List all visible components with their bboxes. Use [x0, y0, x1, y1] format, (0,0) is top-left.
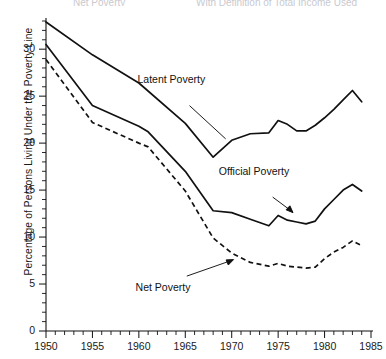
y-tick-label: 5: [29, 277, 35, 289]
series-line-official-poverty: [46, 44, 362, 225]
chart-svg: 051015202530 195019551960196519701975198…: [0, 0, 386, 359]
x-tick-label: 1980: [313, 340, 337, 352]
x-tick-label: 1985: [359, 340, 383, 352]
poverty-line-chart: Net Poverty With Definition of Total Inc…: [0, 0, 386, 359]
x-tick-label: 1965: [174, 340, 198, 352]
x-axis: 19501955196019651970197519801985: [34, 331, 383, 352]
x-tick-label: 1975: [266, 340, 290, 352]
series-line-latent-poverty: [46, 22, 362, 157]
annotation-label: Official Poverty: [219, 165, 290, 177]
annotation-label: Net Poverty: [136, 281, 192, 293]
series-lines: [46, 22, 362, 268]
y-axis-title: Percentage of Persons Living Under the P…: [23, 36, 34, 276]
series-line-net-poverty: [46, 60, 362, 269]
annotation-leader: [187, 260, 232, 276]
y-tick-label: 0: [29, 324, 35, 336]
annotation-arrowhead: [226, 260, 233, 265]
x-tick-label: 1970: [220, 340, 244, 352]
annotation-arrowhead: [286, 206, 293, 213]
annotation-label: Latent Poverty: [137, 73, 205, 85]
series-annotations: Latent PovertyOfficial PovertyNet Povert…: [136, 73, 293, 293]
x-tick-label: 1950: [34, 340, 58, 352]
x-tick-label: 1955: [81, 340, 105, 352]
x-tick-label: 1960: [127, 340, 151, 352]
